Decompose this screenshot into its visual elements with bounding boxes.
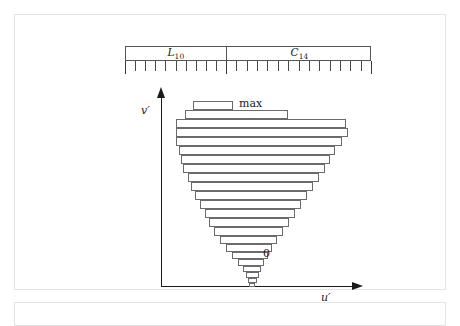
histogram-bar <box>195 191 307 200</box>
next-page-frame <box>14 302 446 326</box>
ruler-tick <box>176 61 177 71</box>
ruler-tick <box>299 61 300 71</box>
histogram-bar <box>209 218 289 227</box>
ruler-tick <box>330 61 331 71</box>
ruler-tick <box>278 61 279 71</box>
histogram-bar <box>179 146 335 155</box>
ruler-tick <box>361 61 362 71</box>
histogram-bar <box>220 236 277 244</box>
histogram-bar <box>183 164 325 173</box>
plot-area: v′ u′ max 0 <box>143 87 379 293</box>
ruler-tick <box>267 61 268 71</box>
histogram-bar <box>185 110 288 119</box>
histogram-bar <box>176 128 348 137</box>
histogram-bar <box>249 283 255 287</box>
ruler-tick <box>309 61 310 71</box>
max-annotation: max <box>239 97 262 110</box>
scale-ruler: L10 C14 <box>125 46 371 74</box>
histogram-bar <box>181 155 330 164</box>
histogram-bar <box>176 137 342 146</box>
ruler-tick <box>236 61 237 71</box>
ruler-tick <box>247 61 248 71</box>
zero-annotation: 0 <box>263 247 270 260</box>
ruler-tick <box>186 61 187 71</box>
ruler-tick <box>226 61 227 74</box>
ruler-tick <box>319 61 320 71</box>
ruler-tick <box>196 61 197 71</box>
ruler-tick <box>257 61 258 71</box>
histogram-bar <box>188 173 319 182</box>
ruler-tick <box>216 61 217 71</box>
ruler-band: L10 C14 <box>125 46 371 61</box>
histogram-bar <box>200 200 301 209</box>
bar-stack <box>143 87 379 293</box>
ruler-segment-c14: C14 <box>227 47 372 60</box>
histogram-bar <box>176 119 346 128</box>
ruler-tick-marks <box>125 61 371 74</box>
histogram-bar <box>214 227 283 236</box>
histogram-bar <box>193 101 233 110</box>
ruler-tick <box>288 61 289 71</box>
ruler-tick <box>206 61 207 71</box>
ruler-tick <box>340 61 341 71</box>
ruler-tick <box>350 61 351 71</box>
ruler-tick <box>371 61 372 74</box>
ruler-segment-l10: L10 <box>126 47 227 60</box>
histogram-bar <box>238 259 264 266</box>
figure-frame: L10 C14 v′ u′ max 0 <box>14 14 446 290</box>
ruler-segment-l10-label: L10 <box>167 46 184 61</box>
ruler-tick <box>125 61 126 74</box>
ruler-tick <box>165 61 166 71</box>
histogram-bar <box>191 182 313 191</box>
ruler-tick <box>155 61 156 71</box>
ruler-tick <box>135 61 136 71</box>
ruler-segment-c14-label: C14 <box>290 46 308 61</box>
histogram-bar <box>205 209 295 218</box>
ruler-tick <box>145 61 146 71</box>
